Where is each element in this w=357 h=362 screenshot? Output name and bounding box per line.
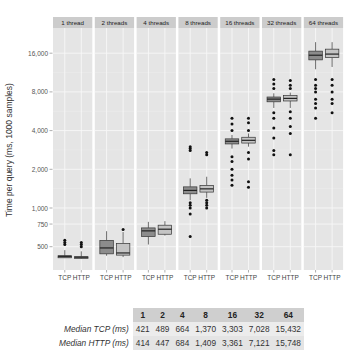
- row-label: Median HTTP (ms): [56, 336, 133, 350]
- table-cell: 421: [133, 322, 153, 336]
- table-header: 16: [219, 308, 246, 322]
- x-tick-label: TCP: [309, 274, 322, 281]
- table-cell: 3,361: [219, 336, 246, 350]
- outlier-point: [272, 137, 275, 140]
- panel-background: [262, 28, 301, 270]
- facet-panel: 8 threadsTCPHTTP: [178, 17, 217, 281]
- facet-panel: 32 threadsTCPHTTP: [262, 17, 301, 281]
- outlier-point: [289, 87, 292, 90]
- outlier-point: [331, 102, 334, 105]
- outlier-point: [189, 235, 192, 238]
- outlier-point: [314, 84, 317, 87]
- outlier-point: [314, 78, 317, 81]
- x-tick-label: TCP: [225, 274, 238, 281]
- y-tick-label: 4,000: [32, 127, 49, 134]
- table-header: 1: [133, 308, 153, 322]
- x-tick-label: HTTP: [324, 274, 341, 281]
- table-row: Median HTTP (ms) 414 447 684 1,409 3,361…: [56, 336, 304, 350]
- outlier-point: [247, 151, 250, 154]
- table-cell: 15,432: [273, 322, 304, 336]
- x-tick-label: HTTP: [240, 274, 257, 281]
- y-tick-label: 8,000: [32, 88, 49, 95]
- outlier-point: [272, 87, 275, 90]
- outlier-point: [314, 117, 317, 120]
- table-cell: 447: [153, 336, 173, 350]
- facet-label: 8 threads: [185, 19, 211, 26]
- outlier-point: [272, 126, 275, 129]
- panel-background: [220, 28, 259, 270]
- panel-background: [178, 28, 217, 270]
- y-tick-label: 2,000: [32, 166, 49, 173]
- outlier-point: [247, 129, 250, 132]
- outlier-point: [272, 149, 275, 152]
- outlier-point: [331, 84, 334, 87]
- table-cell: 1,409: [192, 336, 219, 350]
- table-row: Median TCP (ms) 421 489 664 1,370 3,303 …: [56, 322, 304, 336]
- outlier-point: [230, 179, 233, 182]
- outlier-point: [314, 98, 317, 101]
- facet-label: 16 threads: [225, 19, 254, 26]
- table-cell: 15,748: [273, 336, 304, 350]
- y-axis-label: Time per query (ms, 1000 samples): [4, 83, 14, 217]
- outlier-point: [247, 121, 250, 124]
- table-cell: 7,028: [246, 322, 273, 336]
- y-tick-label: 16,000: [28, 50, 48, 57]
- outlier-point: [289, 117, 292, 120]
- facet-label: 1 thread: [61, 19, 84, 26]
- outlier-point: [272, 111, 275, 114]
- table-header-row: 1 2 4 8 16 32 64: [56, 308, 304, 322]
- outlier-point: [230, 184, 233, 187]
- panel-background: [304, 28, 343, 270]
- facet-label: 32 threads: [267, 19, 296, 26]
- outlier-point: [205, 207, 208, 210]
- outlier-point: [205, 151, 208, 154]
- outlier-point: [247, 180, 250, 183]
- x-tick-label: TCP: [184, 274, 197, 281]
- outlier-point: [189, 207, 192, 210]
- table-cell: 414: [133, 336, 153, 350]
- x-tick-label: TCP: [267, 274, 280, 281]
- outlier-point: [189, 201, 192, 204]
- facet-label: 2 threads: [102, 19, 128, 26]
- row-label: Median TCP (ms): [56, 322, 133, 336]
- facet-label: 4 threads: [143, 19, 169, 26]
- outlier-point: [189, 145, 192, 148]
- table-header: 2: [153, 308, 173, 322]
- y-tick-label: 500: [37, 243, 48, 250]
- median-table: 1 2 4 8 16 32 64 Median TCP (ms) 421 489…: [56, 308, 304, 350]
- facet-panel: 16 threadsTCPHTTP: [220, 17, 259, 281]
- outlier-point: [289, 153, 292, 156]
- facet-panel: 1 threadTCPHTTP: [53, 17, 92, 281]
- outlier-point: [205, 204, 208, 207]
- panel-background: [95, 28, 134, 270]
- outlier-point: [230, 123, 233, 126]
- table-header: 4: [172, 308, 192, 322]
- outlier-point: [230, 174, 233, 177]
- outlier-point: [331, 78, 334, 81]
- facet-panel: 64 threadsTCPHTTP: [304, 17, 343, 281]
- table-cell: 489: [153, 322, 173, 336]
- outlier-point: [289, 79, 292, 82]
- facet-panel: 4 threadsTCPHTTP: [137, 17, 176, 281]
- outlier-point: [230, 117, 233, 120]
- outlier-point: [314, 106, 317, 109]
- outlier-point: [314, 87, 317, 90]
- outlier-point: [272, 83, 275, 86]
- outlier-point: [205, 199, 208, 202]
- table-cell: 7,121: [246, 336, 273, 350]
- table-cell: 3,303: [219, 322, 246, 336]
- outlier-point: [189, 204, 192, 207]
- outlier-point: [230, 160, 233, 163]
- table-header: 8: [192, 308, 219, 322]
- outlier-point: [289, 84, 292, 87]
- outlier-point: [331, 90, 334, 93]
- table-cell: 1,370: [192, 322, 219, 336]
- table-cell: 684: [172, 336, 192, 350]
- y-tick-label: 750: [37, 221, 48, 228]
- x-tick-label: HTTP: [198, 274, 215, 281]
- outlier-point: [331, 111, 334, 114]
- outlier-point: [122, 228, 125, 231]
- x-tick-label: HTTP: [156, 274, 173, 281]
- outlier-point: [230, 129, 233, 132]
- outlier-point: [230, 155, 233, 158]
